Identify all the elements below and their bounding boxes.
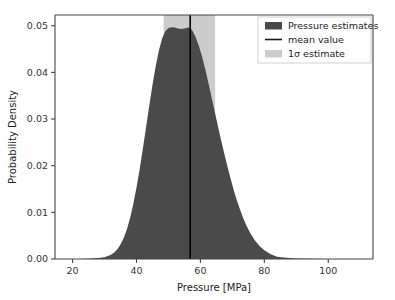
chart-figure: 20406080100 0.000.010.020.030.040.05 Pre…	[0, 0, 395, 300]
y-tick-label: 0.04	[27, 67, 48, 78]
y-tick-label: 0.00	[27, 253, 48, 264]
legend-swatch	[265, 22, 282, 30]
x-tick-label: 100	[319, 265, 337, 276]
y-tick-label: 0.03	[27, 113, 48, 124]
x-axis-ticks: 20406080100	[67, 259, 338, 276]
y-tick-label: 0.01	[27, 207, 48, 218]
legend-swatch	[265, 50, 282, 58]
chart-legend: Pressure estimatesmean value1σ estimate	[258, 17, 378, 63]
x-tick-label: 60	[194, 265, 206, 276]
y-axis-title: Probability Density	[7, 90, 18, 184]
legend-label: Pressure estimates	[288, 20, 378, 31]
y-tick-label: 0.02	[27, 160, 48, 171]
legend-label: 1σ estimate	[288, 48, 345, 59]
y-axis-ticks: 0.000.010.020.030.040.05	[27, 20, 55, 264]
legend-label: mean value	[288, 34, 344, 45]
x-tick-label: 40	[130, 265, 142, 276]
x-axis-title: Pressure [MPa]	[177, 282, 251, 293]
probability-density-plot: 20406080100 0.000.010.020.030.040.05 Pre…	[0, 0, 395, 300]
x-tick-label: 20	[67, 265, 79, 276]
x-tick-label: 80	[258, 265, 270, 276]
y-tick-label: 0.05	[27, 20, 48, 31]
